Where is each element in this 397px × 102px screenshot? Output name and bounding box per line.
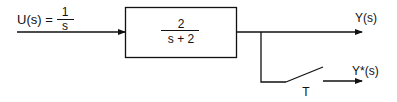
block-diagram: U(s) = 1 s 2 s + 2 Y(s) T Y*(s) [0,0,397,102]
sampler-switch [286,67,323,82]
block-denominator: s + 2 [168,32,195,46]
input-label: U(s) = 1 s [17,5,74,33]
input-denominator: s [62,19,68,33]
block-numerator: 2 [178,17,185,31]
sampled-output-label: Y*(s) [352,64,379,78]
branch-line [261,32,286,82]
input-lhs: U(s) = [17,12,53,27]
output-label: Y(s) [355,11,377,25]
sampler-period-label: T [302,85,310,99]
input-numerator: 1 [62,5,69,19]
transfer-function: 2 s + 2 [161,17,199,46]
